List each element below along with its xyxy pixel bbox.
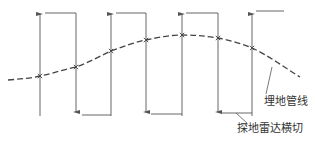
radar-transect-label: 探地雷达横切: [237, 119, 303, 135]
pipeline-leader-line: [266, 67, 272, 94]
buried-pipeline-curve: [8, 35, 300, 80]
radar-traverse-path: [40, 11, 284, 116]
pipeline-label: 埋地管线: [264, 92, 308, 108]
